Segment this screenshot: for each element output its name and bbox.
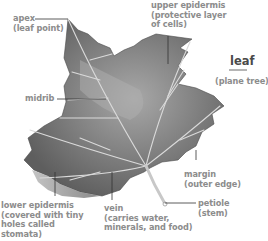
label-apex: apex (leaf point) (13, 14, 64, 33)
petiole-stem (146, 166, 164, 202)
diagram-title: leaf (230, 54, 255, 68)
title-underline (229, 69, 247, 71)
label-midrib: midrib (25, 94, 54, 104)
label-margin: margin (outer edge) (184, 170, 241, 189)
label-lower-epidermis: lower epidermis (covered with tiny holes… (1, 201, 83, 239)
label-vein: vein (carries water, minerals, and food) (104, 204, 193, 233)
diagram-subtitle: (plane tree) (215, 77, 268, 87)
label-petiole: petiole (stem) (198, 199, 229, 218)
leaf-diagram: leaf (plane tree) apex (leaf point) uppe… (0, 0, 268, 241)
label-upper-epidermis: upper epidermis (protective layer of cel… (151, 1, 226, 30)
